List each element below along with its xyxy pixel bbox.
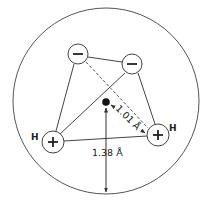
h-label-right: H: [169, 123, 177, 133]
distance-arrow-end: [141, 130, 145, 133]
distance-arrow-start: [111, 105, 114, 107]
radius-label: 1.38 Å: [92, 147, 123, 158]
positive-charge-left: [42, 131, 64, 153]
negative-charge-2: [122, 54, 142, 74]
water-molecule-diagram: H H 1.01 Å 1.38 Å: [0, 0, 210, 202]
oxygen-nucleus: [102, 98, 110, 106]
negative-charge-1: [68, 44, 88, 64]
positive-charge-right: [147, 124, 169, 146]
h-label-left: H: [31, 132, 39, 142]
